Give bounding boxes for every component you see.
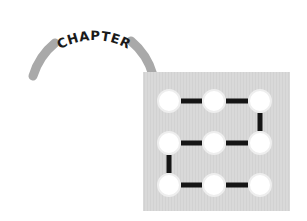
- grid-dots: [158, 90, 271, 196]
- arc-right-segment: [131, 41, 153, 75]
- chapter-label: CHAPTER: [55, 28, 134, 52]
- arc-left-segment: [33, 43, 55, 76]
- chapter-graphic: CHAPTER: [0, 0, 307, 221]
- chapter-badge: CHAPTER: [0, 0, 307, 221]
